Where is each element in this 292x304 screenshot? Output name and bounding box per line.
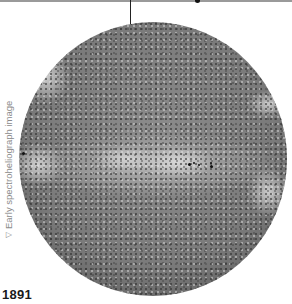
sunspot [188, 163, 191, 166]
sunspot [210, 165, 213, 168]
sunspot [198, 164, 200, 166]
sunspot [193, 162, 195, 164]
granulation-texture [19, 22, 287, 296]
triangle-down-icon: ▽ [4, 232, 13, 238]
sunspot [22, 152, 25, 155]
solar-disc-image [19, 22, 287, 296]
sunspot [210, 162, 212, 164]
year-label: 1891 [2, 287, 32, 302]
leader-line [130, 0, 131, 24]
caption-text: Early spectroheliograph image [3, 101, 14, 229]
top-marker-dot [195, 0, 200, 3]
figure-caption: ▽ Early spectroheliograph image [3, 101, 14, 238]
top-rule [0, 0, 292, 2]
